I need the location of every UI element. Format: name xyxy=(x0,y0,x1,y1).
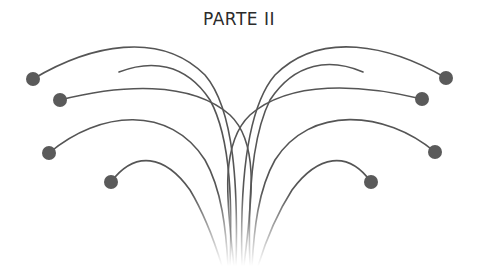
strand-left-2 xyxy=(119,65,231,266)
dot-right-4 xyxy=(428,145,442,159)
dot-right-1 xyxy=(439,71,453,85)
strand-right-4 xyxy=(252,120,435,266)
fountain-diagram xyxy=(0,0,478,266)
strand-right-2 xyxy=(249,65,363,266)
strand-right-5 xyxy=(258,161,371,266)
strand-left-4 xyxy=(49,120,228,266)
dot-left-1 xyxy=(26,72,40,86)
strand-group xyxy=(33,47,446,266)
dot-right-5 xyxy=(364,175,378,189)
strand-right-1 xyxy=(242,47,446,266)
dot-left-3 xyxy=(53,93,67,107)
strand-right-3 xyxy=(228,88,422,266)
strand-left-3 xyxy=(60,89,251,266)
strand-left-5 xyxy=(111,161,222,266)
dot-left-4 xyxy=(42,146,56,160)
dot-right-3 xyxy=(415,92,429,106)
strand-left-1 xyxy=(33,47,236,266)
dot-left-5 xyxy=(104,175,118,189)
